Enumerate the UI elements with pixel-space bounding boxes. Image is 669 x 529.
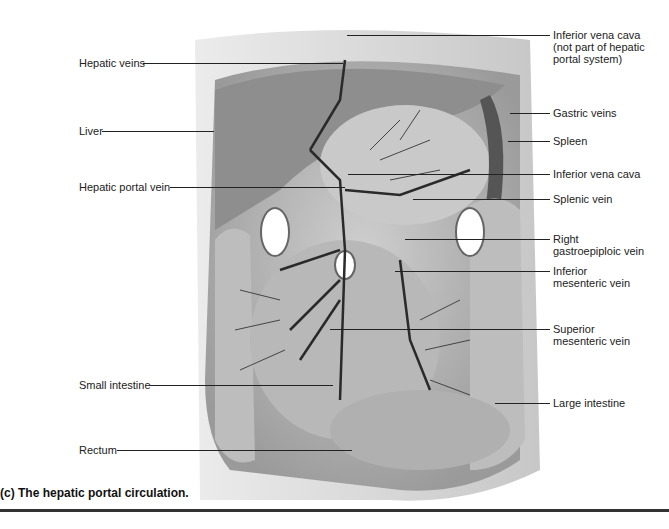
label-hepatic-portal-vein: Hepatic portal vein: [79, 181, 170, 193]
label-ivc-top-line1: Inferior vena cava: [553, 29, 645, 41]
label-right-gastroepiploic-line1: Right: [553, 233, 644, 245]
leader-right-gastroepiploic: [405, 239, 550, 240]
figure-caption: (c) The hepatic portal circulation.: [0, 486, 189, 500]
label-spleen: Spleen: [553, 135, 587, 147]
leader-large-intestine: [495, 403, 550, 404]
label-ivc-top-line3: portal system): [553, 53, 645, 65]
label-liver: Liver: [79, 125, 103, 137]
leader-inferior-mesenteric: [395, 271, 550, 272]
bottom-divider: [0, 509, 669, 512]
label-inferior-mesenteric-line2: mesenteric vein: [553, 277, 630, 289]
leader-liver: [102, 131, 214, 132]
label-large-intestine: Large intestine: [553, 397, 625, 409]
label-gastric-veins: Gastric veins: [553, 107, 617, 119]
label-inferior-mesenteric-line1: Inferior: [553, 265, 630, 277]
label-inferior-mesenteric: Inferior mesenteric vein: [553, 265, 630, 289]
leader-spleen: [508, 141, 550, 142]
leader-gastric-veins: [510, 113, 550, 114]
label-right-gastroepiploic-line2: gastroepiploic vein: [553, 245, 644, 257]
leader-small-intestine: [150, 385, 333, 386]
label-hepatic-veins: Hepatic veins: [79, 57, 145, 69]
leader-rectum: [117, 450, 352, 451]
leader-ivc: [348, 174, 550, 175]
label-ivc: Inferior vena cava: [553, 168, 640, 180]
label-ivc-top-line2: (not part of hepatic: [553, 41, 645, 53]
label-rectum: Rectum: [79, 444, 117, 456]
label-superior-mesenteric-line2: mesenteric vein: [553, 335, 630, 347]
label-superior-mesenteric-line1: Superior: [553, 323, 630, 335]
leader-hepatic-portal-vein: [170, 187, 345, 188]
label-ivc-top: Inferior vena cava (not part of hepatic …: [553, 29, 645, 65]
label-small-intestine: Small intestine: [79, 379, 151, 391]
leader-superior-mesenteric: [330, 329, 550, 330]
leader-ivc-top: [347, 35, 550, 36]
leader-hepatic-veins: [143, 63, 343, 64]
label-splenic-vein: Splenic vein: [553, 193, 612, 205]
label-superior-mesenteric: Superior mesenteric vein: [553, 323, 630, 347]
label-right-gastroepiploic: Right gastroepiploic vein: [553, 233, 644, 257]
leader-splenic-vein: [413, 199, 550, 200]
